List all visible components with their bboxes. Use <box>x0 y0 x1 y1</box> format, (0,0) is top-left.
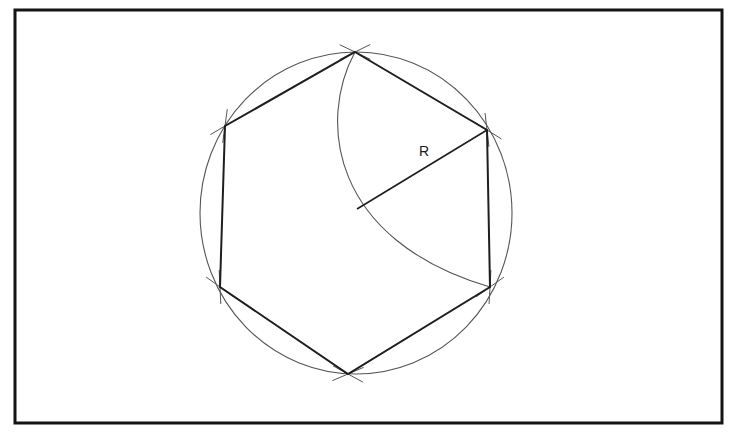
hexagon-outline <box>220 52 490 374</box>
radius-line <box>357 130 487 209</box>
diagram-canvas: R <box>0 0 732 434</box>
hexagon-construction-figure <box>0 0 732 434</box>
circumscribed-circle <box>200 52 512 374</box>
radius-label: R <box>419 143 429 159</box>
